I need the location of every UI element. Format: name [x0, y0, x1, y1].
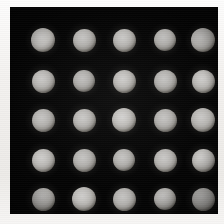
spot-halo	[148, 64, 181, 97]
spot-marker	[192, 70, 215, 93]
spot-marker	[32, 70, 55, 93]
spot-halo	[148, 103, 181, 136]
figure-root	[0, 0, 224, 224]
spot-marker	[191, 28, 215, 52]
spot-core	[112, 108, 136, 132]
spot-halo	[26, 64, 59, 97]
spot-marker	[154, 109, 177, 132]
spot-halo	[26, 103, 59, 136]
spot-halo	[26, 23, 61, 58]
spot-core	[192, 188, 215, 211]
spot-core	[154, 149, 177, 172]
spot-marker	[32, 109, 55, 132]
spot-marker	[113, 188, 136, 211]
spot-marker	[154, 70, 177, 93]
spot-marker	[191, 108, 215, 132]
spot-core	[154, 188, 176, 210]
spot-marker	[112, 108, 136, 132]
spot-halo	[149, 183, 181, 214]
spot-halo	[108, 144, 140, 176]
spot-core	[113, 29, 136, 52]
spot-core	[192, 149, 215, 172]
spot-halo	[148, 143, 181, 176]
spot-core	[113, 70, 136, 93]
spot-core	[32, 188, 55, 211]
spot-marker	[154, 29, 176, 51]
spot-marker	[73, 70, 95, 92]
spot-core	[73, 29, 96, 52]
spot-core	[154, 70, 177, 93]
spot-core	[113, 149, 135, 171]
spot-halo	[26, 143, 59, 176]
spot-halo	[186, 143, 218, 176]
spot-halo	[67, 182, 102, 214]
spot-halo	[67, 23, 100, 56]
spot-core	[31, 28, 55, 52]
spot-halo	[67, 143, 100, 176]
spot-marker	[32, 188, 55, 211]
spot-marker	[72, 187, 96, 211]
spot-marker	[113, 70, 136, 93]
spot-core	[73, 149, 96, 172]
spot-marker	[154, 149, 177, 172]
spot-marker	[154, 188, 176, 210]
spot-core	[191, 28, 215, 52]
spot-halo	[26, 182, 59, 214]
spot-core	[154, 109, 177, 132]
spot-halo	[107, 182, 140, 214]
spot-marker	[113, 149, 135, 171]
spot-core	[32, 109, 55, 132]
spot-core	[73, 109, 96, 132]
spot-marker	[73, 109, 96, 132]
spot-core	[73, 70, 95, 92]
spot-marker	[113, 29, 136, 52]
spot-core	[32, 149, 55, 172]
spot-marker	[73, 149, 96, 172]
spot-marker	[31, 28, 55, 52]
spot-core	[192, 70, 215, 93]
spot-core	[72, 187, 96, 211]
spot-core	[113, 188, 136, 211]
spot-halo	[107, 64, 140, 97]
imaging-panel	[10, 7, 218, 214]
spot-halo	[149, 24, 181, 56]
panel-background-noise	[10, 7, 218, 214]
spot-marker	[192, 188, 215, 211]
spot-halo	[186, 64, 218, 97]
spot-halo	[186, 23, 218, 58]
spot-marker	[73, 29, 96, 52]
panel-vignette	[10, 7, 218, 214]
spot-halo	[186, 103, 218, 138]
spot-halo	[67, 103, 100, 136]
spot-halo	[68, 65, 100, 97]
spot-marker	[32, 149, 55, 172]
spot-core	[154, 29, 176, 51]
spot-halo	[107, 23, 140, 56]
spot-core	[32, 70, 55, 93]
spot-marker	[192, 149, 215, 172]
spot-halo	[107, 103, 142, 138]
spot-halo	[186, 182, 218, 214]
spot-core	[191, 108, 215, 132]
